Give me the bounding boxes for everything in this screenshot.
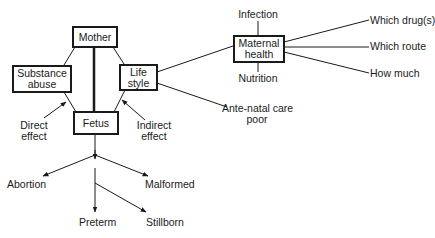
mother-node: Mother [72, 26, 118, 48]
malformed-label: Malformed [145, 179, 195, 190]
lifestyle-maternal-line [157, 46, 233, 72]
stillborn-arrow [95, 183, 146, 212]
direct-effect-label: Direct effect [18, 120, 50, 142]
which-drugs-line [284, 20, 369, 42]
indirect-effect-line-2: effect [135, 131, 173, 142]
which-route-label: Which route [370, 41, 426, 52]
abortion-arrow [43, 155, 95, 176]
antenatal-care-label: Ante-natal care poor [222, 103, 292, 125]
stillborn-label: Stillborn [146, 217, 184, 228]
lifestyle-antenatal-line [157, 83, 227, 107]
life-style-label-1: Life [130, 67, 147, 78]
indirect-effect-label: Indirect effect [135, 120, 173, 142]
fetus-node: Fetus [73, 111, 119, 135]
substance-abuse-label-2: abuse [28, 79, 57, 90]
direct-effect-arrow [44, 102, 66, 118]
abortion-label: Abortion [7, 179, 46, 190]
direct-effect-line-2: effect [18, 131, 50, 142]
substance-abuse-node: Substance abuse [12, 65, 72, 93]
preterm-label: Preterm [79, 217, 116, 228]
life-style-label-2: style [128, 78, 150, 89]
mother-lifestyle-line [113, 47, 124, 64]
infection-label: Infection [238, 9, 278, 20]
maternal-health-node: Maternal health [233, 35, 285, 63]
how-much-label: How much [370, 68, 420, 79]
antenatal-care-line-2: poor [222, 114, 292, 125]
which-drugs-label: Which drug(s) [370, 15, 435, 26]
fetus-label: Fetus [83, 118, 109, 129]
how-much-line [284, 52, 369, 73]
nutrition-label: Nutrition [238, 73, 278, 84]
maternal-health-label-2: health [245, 49, 274, 60]
mother-substance-line [64, 47, 75, 65]
life-style-node: Life style [119, 64, 158, 91]
malformed-arrow [95, 155, 148, 176]
mother-label: Mother [79, 32, 112, 43]
indirect-effect-arrow [122, 100, 145, 120]
